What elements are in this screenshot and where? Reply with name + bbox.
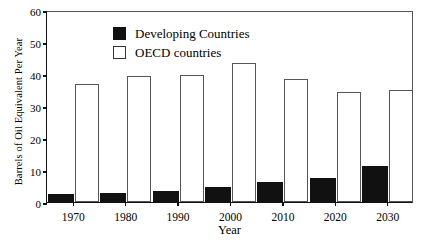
legend-item-developing: Developing Countries xyxy=(113,24,249,42)
x-tick-label: 2000 xyxy=(201,211,261,223)
y-tick-label: 40 xyxy=(17,71,41,82)
bar-developing-2010 xyxy=(257,182,283,202)
bar-oecd-2010 xyxy=(284,79,308,202)
bar-oecd-1980 xyxy=(127,76,151,202)
bar-oecd-1970 xyxy=(75,84,99,202)
y-tick-mark xyxy=(43,43,47,44)
x-tick-mark xyxy=(387,202,388,206)
y-tick-label: 60 xyxy=(17,7,41,18)
x-tick-mark xyxy=(73,202,74,206)
bar-developing-1980 xyxy=(100,193,126,202)
x-tick-label: 2030 xyxy=(358,211,418,223)
bar-developing-2000 xyxy=(205,187,231,202)
bar-oecd-1990 xyxy=(180,75,204,202)
bar-developing-1970 xyxy=(48,194,74,202)
bar-chart-figure: Barrels of Oil Equivalent Per Year 01020… xyxy=(0,0,423,247)
legend-label-oecd: OECD countries xyxy=(135,46,221,59)
y-tick-mark xyxy=(43,171,47,172)
y-tick-label: 10 xyxy=(17,167,41,178)
x-axis-title: Year xyxy=(46,223,413,238)
x-tick-label: 1970 xyxy=(43,211,103,223)
legend-swatch-hollow-icon xyxy=(113,46,126,59)
y-tick-mark xyxy=(43,75,47,76)
bar-developing-2030 xyxy=(362,166,388,202)
legend: Developing Countries OECD countries xyxy=(113,24,249,62)
y-tick-mark xyxy=(43,11,47,12)
plot-area: 0102030405060 19701980199020002010202020… xyxy=(46,11,413,203)
y-tick-mark xyxy=(43,203,47,204)
y-tick-label: 20 xyxy=(17,135,41,146)
x-tick-label: 1980 xyxy=(96,211,156,223)
bar-oecd-2030 xyxy=(389,90,413,202)
x-tick-mark xyxy=(177,202,178,206)
bar-developing-1990 xyxy=(153,191,179,202)
bar-oecd-2020 xyxy=(337,92,361,202)
bar-developing-2020 xyxy=(310,178,336,202)
y-tick-label: 0 xyxy=(17,199,41,210)
x-tick-mark xyxy=(230,202,231,206)
y-tick-label: 50 xyxy=(17,39,41,50)
x-tick-label: 1990 xyxy=(148,211,208,223)
x-tick-mark xyxy=(282,202,283,206)
y-tick-label: 30 xyxy=(17,103,41,114)
y-tick-mark xyxy=(43,139,47,140)
y-tick-mark xyxy=(43,107,47,108)
x-tick-label: 2020 xyxy=(305,211,365,223)
legend-item-oecd: OECD countries xyxy=(113,43,249,61)
x-tick-label: 2010 xyxy=(253,211,313,223)
x-tick-mark xyxy=(335,202,336,206)
bar-oecd-2000 xyxy=(232,63,256,202)
legend-label-developing: Developing Countries xyxy=(135,27,249,40)
x-tick-mark xyxy=(125,202,126,206)
legend-swatch-filled-icon xyxy=(113,27,126,40)
